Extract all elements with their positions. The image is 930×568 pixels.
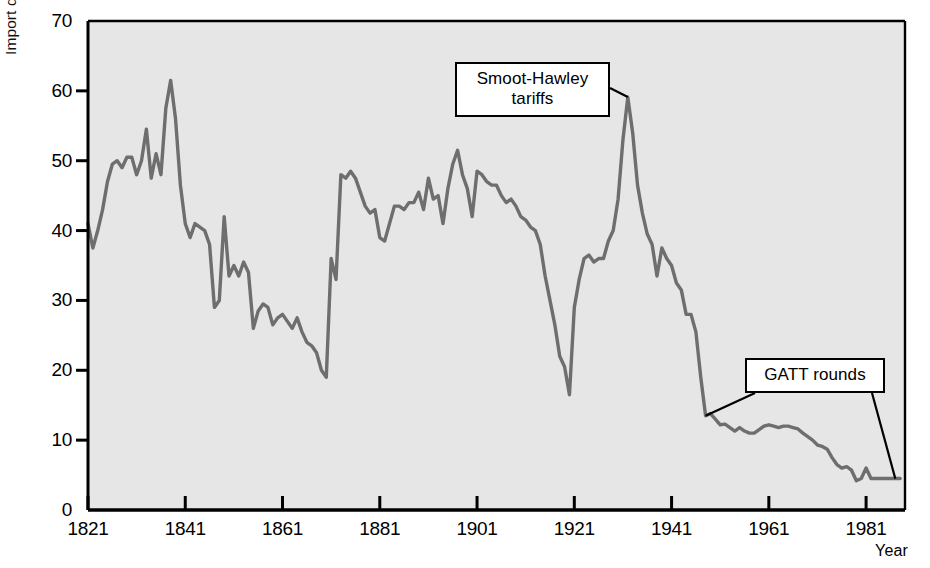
x-tick-label: 1861: [262, 518, 303, 540]
x-tick-label: 1841: [165, 518, 206, 540]
x-axis-title: Year: [875, 542, 908, 560]
y-tick-label: 50: [0, 150, 72, 172]
y-tick-label: 20: [0, 359, 72, 381]
annotation-smoot-hawley-line1: Smoot-Hawley: [467, 69, 598, 89]
x-tick-label: 1981: [846, 518, 887, 540]
tariff-line-chart: Import duties (percentage of imports) 01…: [0, 0, 930, 568]
y-tick-label: 0: [0, 499, 72, 521]
x-tick-label: 1921: [554, 518, 595, 540]
x-tick-label: 1881: [359, 518, 400, 540]
x-tick-label: 1901: [457, 518, 498, 540]
x-tick-label: 1821: [67, 518, 108, 540]
y-tick-label: 30: [0, 289, 72, 311]
annotation-smoot-hawley-line2: tariffs: [467, 89, 598, 109]
annotation-smoot-hawley: Smoot-Hawley tariffs: [455, 62, 610, 117]
x-tick-label: 1961: [748, 518, 789, 540]
annotation-gatt-rounds-line1: GATT rounds: [757, 365, 873, 385]
y-tick-label: 70: [0, 10, 72, 32]
y-tick-label: 10: [0, 429, 72, 451]
x-tick-label: 1941: [651, 518, 692, 540]
y-tick-label: 40: [0, 220, 72, 242]
y-tick-label: 60: [0, 80, 72, 102]
annotation-gatt-rounds: GATT rounds: [745, 358, 885, 393]
